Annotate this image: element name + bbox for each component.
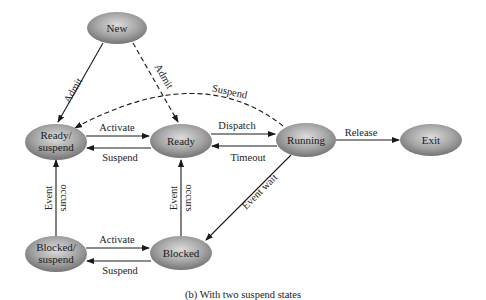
edge-labels: Admit Admit Suspend Activate Suspend Dis… [43,62,378,276]
label-dispatch: Dispatch [218,120,256,131]
label-release: Release [345,127,378,138]
node-blocked-label: Blocked [163,247,200,259]
label-admit-right: Admit [153,62,176,91]
label-timeout: Timeout [230,152,265,163]
node-blocked: Blocked [150,236,212,270]
caption: (b) With two suspend states [185,289,301,300]
label-admit-left: Admit [61,76,84,105]
label-event-left: Event [43,186,54,211]
node-ready-suspend: Ready/ suspend [25,124,87,160]
node-blocked-suspend-line1: Blocked/ [36,241,77,253]
node-blocked-suspend: Blocked/ suspend [25,236,87,272]
node-running-label: Running [287,134,325,146]
node-ready: Ready [150,124,212,158]
label-event-right: Event [168,186,179,211]
node-new-label: New [107,22,128,34]
label-activate-top: Activate [99,122,135,133]
label-suspend-top: Suspend [102,152,138,163]
node-running: Running [276,123,336,157]
node-new: New [87,12,147,44]
node-exit: Exit [400,124,462,156]
node-ready-suspend-line2: suspend [38,141,74,153]
state-diagram: Admit Admit Suspend Activate Suspend Dis… [0,0,486,300]
label-suspend-curve: Suspend [211,82,249,100]
label-occurs-right: occurs [184,184,195,211]
node-ready-suspend-line1: Ready/ [40,129,72,141]
node-blocked-suspend-line2: suspend [38,253,74,265]
node-ready-label: Ready [167,135,196,147]
label-suspend-bottom: Suspend [102,265,138,276]
label-activate-bottom: Activate [99,234,135,245]
label-event-wait: Event wait [240,172,280,212]
node-exit-label: Exit [422,134,440,146]
label-occurs-left: occurs [59,184,70,211]
